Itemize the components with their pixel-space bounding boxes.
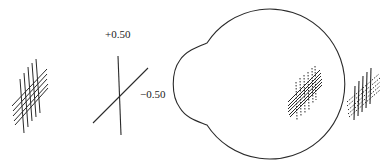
- perceived-image: [347, 68, 380, 120]
- eye-outline: [173, 9, 345, 159]
- plus-power-label: +0.50: [105, 28, 130, 40]
- minus-power-label: −0.50: [140, 88, 165, 100]
- optics-diagram: [0, 0, 387, 168]
- retinal-image: [288, 66, 322, 120]
- object-grid: [12, 59, 48, 133]
